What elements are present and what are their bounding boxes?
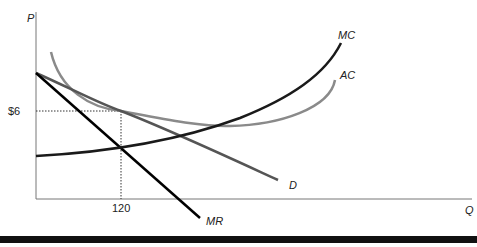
mr-curve (36, 73, 200, 218)
quantity-marker-label: 120 (112, 202, 130, 214)
ac-label: AC (339, 69, 355, 81)
mc-label: MC (338, 29, 355, 41)
bottom-divider-bar (0, 236, 477, 243)
d-label: D (289, 179, 297, 191)
y-axis-label: P (27, 12, 35, 24)
economics-diagram: P Q $6 120 MC AC D MR (0, 0, 477, 247)
price-marker-label: $6 (8, 105, 20, 117)
mr-label: MR (206, 215, 223, 227)
x-axis-label: Q (465, 204, 474, 216)
ac-curve (51, 52, 335, 126)
